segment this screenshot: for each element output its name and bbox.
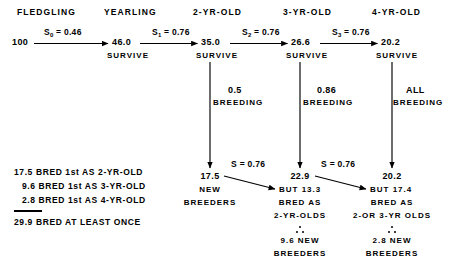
diagram-canvas: FLEDGLING YEARLING 2-YR-OLD 3-YR-OLD 4-Y… (0, 0, 468, 261)
arrow-transfer-3yr-to-4yr (315, 176, 366, 189)
connector-layer (0, 0, 468, 261)
arrow-transfer-2yr-to-3yr (224, 176, 275, 189)
